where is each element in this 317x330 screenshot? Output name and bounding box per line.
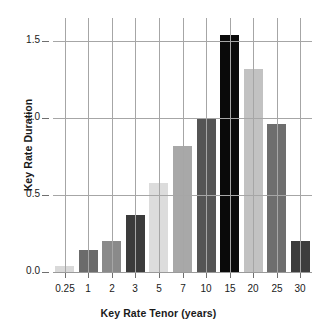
x-axis-tick-label: 15 [224, 283, 235, 294]
y-axis-tick-label: 1.0 [26, 111, 40, 122]
y-axis-title: Key Rate Duration [22, 55, 34, 235]
x-axis-tick-label: 30 [294, 283, 305, 294]
y-axis-tick: 0.0 [0, 272, 53, 273]
y-axis-tick-mark [42, 272, 49, 273]
y-axis-tick-mark [42, 195, 49, 196]
x-axis-tick-label: 10 [200, 283, 211, 294]
gridline-vertical [88, 18, 89, 272]
x-axis-tick-label: 3 [132, 283, 138, 294]
gridline-vertical [135, 18, 136, 272]
y-axis-tick-label: 0.5 [26, 188, 40, 199]
gridline-vertical [300, 18, 301, 272]
y-axis-tick: 0.5 [0, 195, 53, 196]
gridline-vertical [112, 18, 113, 272]
gridline-vertical [183, 18, 184, 272]
y-axis-tick-label: 1.5 [26, 34, 40, 45]
y-axis-tick-mark [42, 118, 49, 119]
gridline-vertical [277, 18, 278, 272]
x-axis-tick-label: 25 [271, 283, 282, 294]
gridline-vertical [230, 18, 231, 272]
gridline-vertical [159, 18, 160, 272]
y-axis-tick-mark [42, 41, 49, 42]
y-axis-tick-label: 0.0 [26, 265, 40, 276]
gridline-vertical [253, 18, 254, 272]
x-axis-baseline [53, 272, 312, 273]
gridline-vertical [206, 18, 207, 272]
y-axis-tick: 1.0 [0, 118, 53, 119]
x-axis-tick-label: 5 [156, 283, 162, 294]
gridline-vertical [65, 18, 66, 272]
key-rate-duration-chart: Key Rate Duration 0.00.51.01.50.25123571… [0, 0, 317, 330]
x-axis-tick-label: 2 [109, 283, 115, 294]
x-axis-tick-label: 7 [180, 283, 186, 294]
x-axis-tick-label: 20 [247, 283, 258, 294]
y-axis-tick: 1.5 [0, 41, 53, 42]
x-axis-tick-label: 0.25 [55, 283, 74, 294]
x-axis-tick-label: 1 [85, 283, 91, 294]
x-axis-title: Key Rate Tenor (years) [0, 307, 317, 319]
